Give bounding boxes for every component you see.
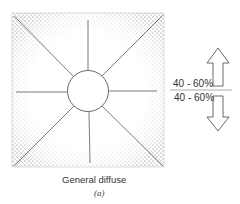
downward-percentage: 40 - 60% [174,92,214,103]
diagram-sublabel: (a) [94,188,105,198]
luminaire-circle [68,71,109,112]
diagram-caption: General diffuse [62,174,126,185]
upward-percentage: 40 - 60% [173,78,213,89]
